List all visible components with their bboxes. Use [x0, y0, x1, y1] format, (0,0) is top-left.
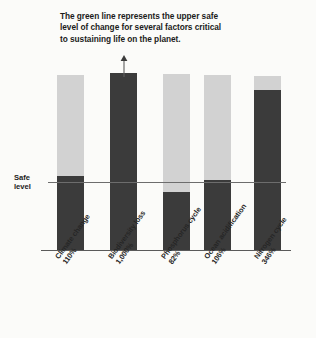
bar-segment-light-climate-change	[57, 75, 84, 176]
safe-level-line	[48, 182, 286, 183]
plot-area: Safe level Climate change 110% Biodivers…	[0, 0, 316, 338]
safe-level-label-line-1: Safe	[14, 173, 31, 182]
chart-container: The green line represents the upper safe…	[0, 0, 316, 338]
overflow-up-arrow-icon	[119, 55, 129, 77]
bar-segment-light-phosphorus-cycle	[163, 74, 190, 192]
safe-level-label-line-2: level	[14, 182, 31, 191]
bar-segment-light-ocean-acidification	[204, 75, 231, 180]
safe-level-label: Safe level	[14, 173, 31, 192]
bar-segment-light-nitrogen-cycle	[254, 76, 281, 90]
